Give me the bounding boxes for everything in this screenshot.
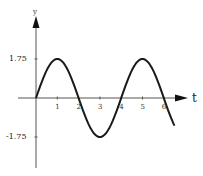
x-axis-label: t bbox=[192, 91, 197, 105]
x-axis-arrow-icon bbox=[175, 95, 188, 102]
x-tick-label: 3 bbox=[98, 103, 102, 111]
x-tick-labels: 123456 bbox=[55, 103, 167, 111]
y-axis-label: y bbox=[32, 8, 37, 16]
x-tick-label: 5 bbox=[141, 103, 145, 111]
y-axis-arrow-icon bbox=[33, 16, 40, 28]
y-tick-label-pos: 1.75 bbox=[9, 54, 27, 63]
y-tick-label-neg: -1.75 bbox=[6, 132, 27, 141]
sine-chart: t y 1.75 -1.75 123456 bbox=[0, 0, 203, 176]
x-tick-label: 1 bbox=[55, 103, 59, 111]
